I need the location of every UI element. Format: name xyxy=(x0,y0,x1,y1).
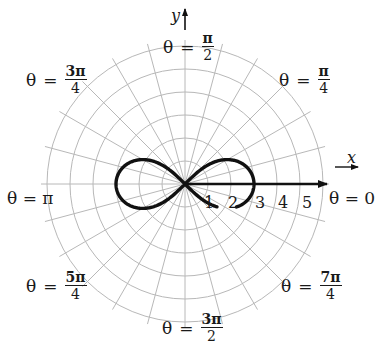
radial-tick-5: 5 xyxy=(302,193,312,212)
angle-label-3pi-over-2: θ= 3π2 xyxy=(162,312,223,343)
radial-tick-2: 2 xyxy=(228,193,238,212)
x-axis-label: x xyxy=(347,148,356,167)
angle-label-pi-over-2: θ= π2 xyxy=(163,31,214,62)
radial-tick-3: 3 xyxy=(255,193,265,212)
angle-label-5pi-over-4: θ= 5π4 xyxy=(26,270,87,301)
y-axis-label: y xyxy=(171,6,180,25)
radial-tick-1: 1 xyxy=(204,193,214,212)
angle-label-0: θ = 0 xyxy=(329,188,375,208)
angle-label-7pi-over-4: θ= 7π4 xyxy=(281,270,342,301)
radial-tick-4: 4 xyxy=(278,193,288,212)
angle-label-pi: θ = π xyxy=(7,188,53,208)
angle-label-pi-over-4: θ= π4 xyxy=(279,64,330,95)
angle-label-3pi-over-4: θ= 3π4 xyxy=(26,64,87,95)
